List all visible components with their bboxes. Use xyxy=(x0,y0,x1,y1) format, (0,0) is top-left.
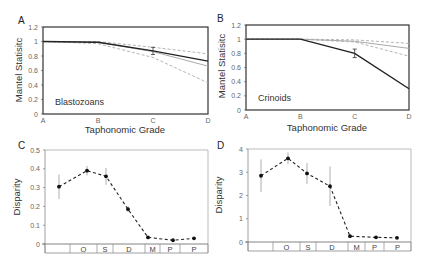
group-label: Blastozoans xyxy=(55,97,105,107)
period-label: M xyxy=(149,245,155,254)
chart-panel-a: AMantel Statisitc00.20.40.60.811.2ABCDTa… xyxy=(13,15,211,135)
y-axis-label: Mantel Statisitc xyxy=(13,38,24,103)
data-point xyxy=(259,174,263,178)
figure: AMantel Statisitc00.20.40.60.811.2ABCDTa… xyxy=(0,0,424,264)
y-tick-label: 0.3 xyxy=(30,184,40,191)
x-axis-label: Taphonomic Grade xyxy=(85,124,165,135)
x-tick-label: D xyxy=(205,117,210,124)
data-point xyxy=(192,236,196,240)
period-label: P xyxy=(191,245,196,254)
data-point xyxy=(348,234,352,238)
data-point xyxy=(171,238,175,242)
period-label: S xyxy=(305,243,310,252)
y-tick-label: 4 xyxy=(239,146,243,153)
chart-panel-c: CDisparity00.10.20.30.40.5OSDMPP xyxy=(11,140,208,254)
y-tick-label: 0 xyxy=(34,111,38,118)
period-label: O xyxy=(81,245,87,254)
y-tick-label: 0.6 xyxy=(28,67,38,74)
x-tick-label: C xyxy=(150,117,155,124)
data-point xyxy=(374,235,378,239)
y-tick-label: 0 xyxy=(239,239,243,246)
y-tick-label: 0.5 xyxy=(30,147,40,154)
x-tick-label: C xyxy=(352,113,357,120)
y-tick-label: 1 xyxy=(34,38,38,45)
period-label: O xyxy=(284,243,290,252)
panel-letter: D xyxy=(217,140,224,151)
y-tick-label: 0.1 xyxy=(30,222,40,229)
y-tick-label: 0.6 xyxy=(231,64,241,71)
data-point xyxy=(286,156,290,160)
series-observed xyxy=(246,39,409,89)
group-label: Crinoids xyxy=(258,93,292,103)
series-lower-bound xyxy=(246,39,409,56)
y-tick-label: 0.8 xyxy=(28,53,38,60)
y-tick-label: 0.4 xyxy=(28,82,38,89)
period-label: D xyxy=(329,243,335,252)
chart-panel-d: DDisparity01234OSDMPP xyxy=(213,140,411,252)
series-model-mean xyxy=(43,42,208,67)
y-tick-label: 3 xyxy=(239,169,243,176)
period-label: P xyxy=(395,243,400,252)
x-tick-label: B xyxy=(298,113,303,120)
panel-letter: B xyxy=(217,13,224,24)
series-upper-bound xyxy=(43,42,208,54)
y-tick-label: 0.2 xyxy=(231,92,241,99)
series-lower-bound xyxy=(43,42,208,83)
period-label: S xyxy=(102,245,107,254)
y-tick-label: 2 xyxy=(239,192,243,199)
y-tick-label: 1.2 xyxy=(231,22,241,29)
period-label: P xyxy=(372,243,377,252)
panel-letter: A xyxy=(18,15,25,26)
y-tick-label: 1 xyxy=(239,215,243,222)
series-disparity xyxy=(261,158,397,238)
data-point xyxy=(85,169,89,173)
period-label: D xyxy=(126,245,132,254)
x-tick-label: A xyxy=(244,113,249,120)
chart-panel-b: BMantel Statisitc00.20.40.60.811.2ABCDTa… xyxy=(216,13,412,133)
y-tick-label: 0.2 xyxy=(30,203,40,210)
y-axis-label: Disparity xyxy=(213,176,224,213)
period-label: M xyxy=(353,243,359,252)
x-tick-label: D xyxy=(406,113,411,120)
y-tick-label: 0 xyxy=(36,241,40,248)
data-point xyxy=(146,236,150,240)
series-disparity xyxy=(59,171,194,241)
y-tick-label: 0.8 xyxy=(231,50,241,57)
data-point xyxy=(57,185,61,189)
y-tick-label: 0.4 xyxy=(231,78,241,85)
data-point xyxy=(104,174,108,178)
y-tick-label: 0.2 xyxy=(28,96,38,103)
series-model-mean xyxy=(246,39,409,48)
data-point xyxy=(126,207,130,211)
y-tick-label: 1 xyxy=(237,36,241,43)
x-tick-label: A xyxy=(41,117,46,124)
data-point xyxy=(305,172,309,176)
x-axis-label: Taphonomic Grade xyxy=(287,122,367,133)
y-axis-label: Disparity xyxy=(11,178,22,215)
y-tick-label: 0.4 xyxy=(30,165,40,172)
data-point xyxy=(328,184,332,188)
y-tick-label: 1.2 xyxy=(28,24,38,31)
y-tick-label: 0 xyxy=(237,107,241,114)
data-point xyxy=(395,236,399,240)
panel-letter: C xyxy=(18,140,25,151)
x-tick-label: B xyxy=(96,117,101,124)
y-axis-label: Mantel Statisitc xyxy=(216,34,227,99)
period-label: P xyxy=(167,245,172,254)
